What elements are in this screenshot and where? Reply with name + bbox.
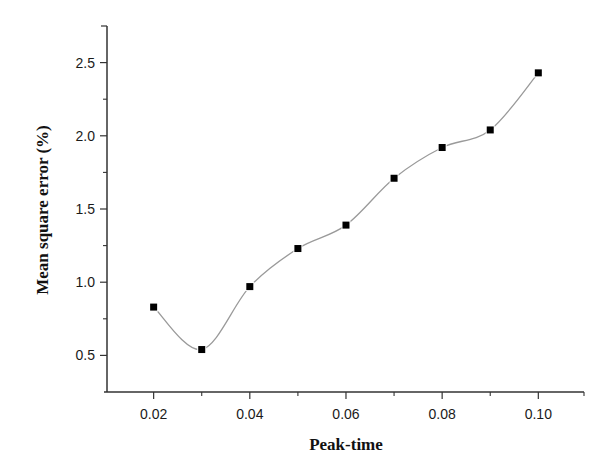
x-tick-label: 0.08 (429, 406, 456, 422)
y-tick-label: 1.0 (76, 274, 96, 290)
data-point-marker (487, 126, 494, 133)
y-tick-label: 0.5 (76, 347, 96, 363)
y-tick-label: 1.5 (76, 201, 96, 217)
chart: 0.51.01.52.02.5 0.020.040.060.080.10 Pea… (0, 0, 613, 470)
data-markers (149, 68, 543, 354)
data-point-marker (246, 283, 253, 290)
axes: 0.51.01.52.02.5 0.020.040.060.080.10 (76, 26, 584, 422)
data-point-marker (150, 304, 157, 311)
data-point-marker (294, 245, 301, 252)
x-axis-ticks: 0.020.040.060.080.10 (140, 392, 584, 422)
x-tick-label: 0.04 (236, 406, 263, 422)
x-tick-label: 0.06 (332, 406, 359, 422)
y-axis-ticks: 0.51.01.52.02.5 (76, 26, 107, 363)
data-point-marker (198, 346, 205, 353)
data-curve (154, 73, 539, 350)
x-tick-label: 0.10 (525, 406, 552, 422)
data-point-marker (342, 222, 349, 229)
plot-area (149, 68, 543, 354)
data-point-marker (535, 69, 542, 76)
x-axis-title: Peak-time (309, 435, 383, 454)
y-axis-title: Mean square error (%) (33, 125, 52, 295)
data-point-marker (439, 144, 446, 151)
x-tick-label: 0.02 (140, 406, 167, 422)
y-tick-label: 2.0 (76, 128, 96, 144)
y-tick-label: 2.5 (76, 55, 96, 71)
data-point-marker (391, 175, 398, 182)
